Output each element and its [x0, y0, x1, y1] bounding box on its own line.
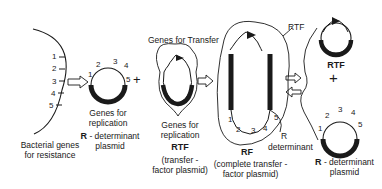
r-det-right-name-rest: - determinant — [322, 157, 374, 167]
rtf-replication-band — [163, 85, 192, 104]
bacterial-gene-3: 3 — [52, 77, 56, 86]
rf-rtf-label: RTF — [288, 22, 304, 32]
hollow-arrow-right-2 — [198, 75, 213, 87]
r-det-left-gene-4: 4 — [124, 61, 128, 70]
dissociation-bracket — [301, 28, 318, 140]
r-det-left-replication-1: Genes for — [78, 108, 138, 118]
r-det-right-gene-1: 1 — [318, 124, 322, 133]
rf-name: RF — [232, 147, 262, 157]
rf-gene-5: 5 — [274, 113, 278, 122]
rf-inner-wavy — [230, 32, 262, 51]
r-det-left-gene-2: 2 — [96, 60, 100, 69]
r-det-left-name-rest: - determinant — [87, 131, 139, 141]
bacterial-gene-1: 1 — [52, 52, 56, 61]
r-det-left-name: R - determinant — [80, 131, 140, 141]
r-determinant-resistance-band-right — [323, 139, 357, 156]
r-det-left-replication-2: replication — [78, 118, 138, 128]
rf-desc-2: factor plasmid) — [208, 169, 293, 179]
r-det-right-gene-2: 2 — [325, 111, 329, 120]
rtf-name: RTF — [150, 142, 210, 152]
plus-sign-1: + — [133, 75, 141, 85]
rf-gene-4: 4 — [263, 124, 267, 133]
rtf-replication-2: replication — [150, 130, 210, 140]
rtf-desc-1: (transfer - — [145, 155, 215, 165]
bacterial-genes-label-1: Bacterial genes — [10, 140, 90, 150]
rtf-transfer-arrowhead — [176, 55, 184, 61]
r-det-right-gene-5: 5 — [358, 120, 362, 129]
hollow-arrow-right-1 — [68, 76, 88, 88]
rf-gene-1: 1 — [228, 115, 232, 124]
rf-r-label: R — [281, 131, 287, 141]
r-det-right-gene-4: 4 — [351, 108, 355, 117]
r-det-left-gene-5: 5 — [126, 75, 130, 84]
rtf-right-band — [321, 40, 351, 55]
bacterial-gene-5: 5 — [49, 101, 53, 110]
rtf-desc-2: factor plasmid) — [145, 165, 215, 175]
r-determinant-resistance-band-left — [91, 85, 125, 102]
r-det-left-gene-1: 1 — [88, 70, 92, 79]
rtf-replication-1: Genes for — [150, 120, 210, 130]
rtf-transfer-label: Genes for Transfer — [148, 35, 218, 45]
bacterial-genes-label-2: for resistance — [10, 150, 90, 160]
r-det-left-name-2: plasmid — [80, 141, 140, 151]
plus-sign-2: + — [329, 73, 338, 83]
rf-desc-1: (complete transfer - — [208, 159, 293, 169]
r-det-left-gene-3: 3 — [113, 57, 117, 66]
rf-gene-3: 3 — [251, 126, 255, 135]
r-det-right-name: R - determinant — [307, 157, 382, 167]
r-det-right-gene-3: 3 — [338, 105, 342, 114]
r-det-right-name-2: plasmid — [307, 167, 382, 177]
bacterial-gene-4: 4 — [51, 89, 55, 98]
rf-gene-2: 2 — [236, 125, 240, 134]
rf-determinant-label: determinant — [268, 142, 313, 152]
bacterial-gene-2: 2 — [52, 64, 56, 73]
